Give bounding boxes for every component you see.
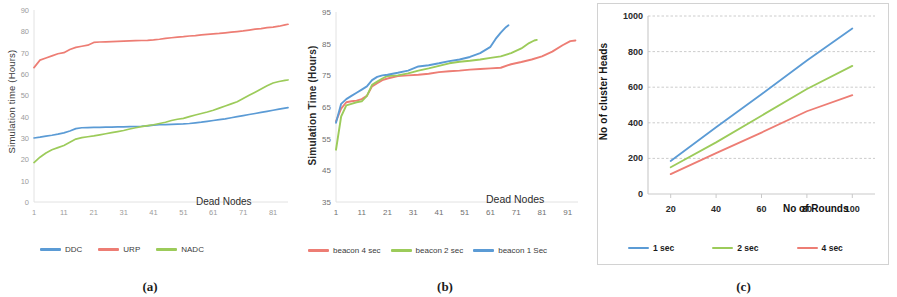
- svg-text:41: 41: [149, 208, 157, 217]
- legend-label-beacon-2sec: beacon 2 sec: [416, 246, 464, 255]
- legend-item-beacon-2sec[interactable]: beacon 2 sec: [391, 246, 464, 255]
- svg-text:20: 20: [21, 155, 29, 164]
- legend-item-urp[interactable]: URP: [98, 245, 140, 254]
- legend-c: 1 sec 2 sec 4 sec: [628, 243, 843, 253]
- legend-item-ddc[interactable]: DDC: [40, 245, 82, 254]
- y-axis-title-b: Simulation Time (Hours): [307, 43, 318, 168]
- legend-swatch-1sec: [628, 247, 649, 249]
- svg-text:91: 91: [563, 208, 572, 217]
- svg-text:35: 35: [322, 198, 331, 207]
- svg-text:40: 40: [711, 204, 721, 214]
- subfigure-caption-b: (b): [300, 279, 590, 295]
- chart-panel-b: 354555657585951112131415161718191 Simula…: [300, 0, 590, 297]
- legend-label-nadc: NADC: [181, 245, 204, 254]
- legend-swatch-urp: [98, 248, 119, 250]
- chart-panel-a: 010203040506070809011121314151617181 Sim…: [0, 0, 300, 297]
- plot-area-c: 0200400600800100020406080100: [590, 0, 897, 240]
- legend-swatch-beacon-2sec: [391, 249, 412, 251]
- legend-label-urp: URP: [123, 245, 140, 254]
- svg-text:45: 45: [322, 166, 331, 175]
- svg-text:51: 51: [179, 208, 187, 217]
- legend-swatch-beacon-1sec: [473, 249, 494, 251]
- svg-text:20: 20: [666, 204, 676, 214]
- chart-svg-c: 0200400600800100020406080100: [590, 0, 897, 240]
- legend-swatch-nadc: [156, 248, 177, 250]
- legend-label-beacon-1sec: beacon 1 Sec: [498, 246, 547, 255]
- svg-text:0: 0: [638, 189, 643, 199]
- svg-text:400: 400: [628, 118, 643, 128]
- svg-text:80: 80: [21, 27, 29, 36]
- legend-swatch-ddc: [40, 248, 61, 250]
- chart-panel-c: 0200400600800100020406080100 No of clust…: [590, 0, 897, 297]
- chart-svg-b: 354555657585951112131415161718191: [300, 0, 590, 240]
- svg-text:11: 11: [60, 208, 68, 217]
- subfigure-caption-a: (a): [0, 279, 300, 295]
- svg-text:10: 10: [21, 177, 29, 186]
- figure-row: 010203040506070809011121314151617181 Sim…: [0, 0, 897, 297]
- svg-text:81: 81: [269, 208, 277, 217]
- legend-b: beacon 4 sec beacon 2 sec beacon 1 Sec: [308, 246, 547, 255]
- legend-swatch-2sec: [712, 247, 733, 249]
- legend-item-2sec[interactable]: 2 sec: [712, 243, 758, 253]
- svg-text:61: 61: [486, 208, 495, 217]
- svg-text:41: 41: [435, 208, 444, 217]
- plot-area-a: 010203040506070809011121314151617181: [0, 0, 300, 240]
- legend-label-ddc: DDC: [65, 245, 82, 254]
- svg-text:200: 200: [628, 153, 643, 163]
- svg-text:70: 70: [21, 49, 29, 58]
- x-axis-title-c: No of Rounds: [783, 203, 849, 214]
- svg-text:81: 81: [538, 208, 547, 217]
- svg-text:50: 50: [21, 91, 29, 100]
- svg-text:30: 30: [21, 134, 29, 143]
- x-axis-title-b: Dead Nodes: [486, 193, 544, 205]
- legend-label-beacon-4sec: beacon 4 sec: [333, 246, 381, 255]
- svg-text:71: 71: [239, 208, 247, 217]
- plot-area-b: 354555657585951112131415161718191: [300, 0, 590, 240]
- svg-text:90: 90: [21, 6, 29, 15]
- y-axis-title-a: Simulation time (Hours): [6, 42, 17, 162]
- svg-text:1: 1: [32, 208, 36, 217]
- legend-item-nadc[interactable]: NADC: [156, 245, 204, 254]
- svg-text:51: 51: [460, 208, 469, 217]
- svg-text:71: 71: [512, 208, 521, 217]
- svg-text:85: 85: [322, 40, 331, 49]
- legend-swatch-beacon-4sec: [308, 249, 329, 251]
- subfigure-caption-c: (c): [590, 279, 897, 295]
- svg-text:65: 65: [322, 103, 331, 112]
- svg-text:40: 40: [21, 113, 29, 122]
- svg-text:31: 31: [409, 208, 418, 217]
- x-axis-title-a: Dead Nodes: [196, 196, 252, 207]
- svg-text:55: 55: [322, 135, 331, 144]
- legend-item-beacon-4sec[interactable]: beacon 4 sec: [308, 246, 381, 255]
- y-axis-title-c: No of cluster Heads: [598, 37, 609, 147]
- legend-swatch-4sec: [797, 247, 818, 249]
- svg-text:600: 600: [628, 82, 643, 92]
- legend-item-beacon-1sec[interactable]: beacon 1 Sec: [473, 246, 547, 255]
- svg-text:95: 95: [322, 8, 331, 17]
- svg-text:1000: 1000: [623, 11, 643, 21]
- legend-label-2sec: 2 sec: [737, 243, 758, 253]
- legend-a: DDC URP NADC: [40, 245, 220, 254]
- svg-text:800: 800: [628, 47, 643, 57]
- svg-text:11: 11: [358, 208, 367, 217]
- svg-text:61: 61: [209, 208, 217, 217]
- svg-text:0: 0: [25, 198, 29, 207]
- svg-text:21: 21: [383, 208, 392, 217]
- svg-text:60: 60: [756, 204, 766, 214]
- chart-svg-a: 010203040506070809011121314151617181: [0, 0, 300, 240]
- svg-text:1: 1: [334, 208, 339, 217]
- legend-label-1sec: 1 sec: [653, 243, 674, 253]
- svg-text:21: 21: [90, 208, 98, 217]
- legend-item-1sec[interactable]: 1 sec: [628, 243, 674, 253]
- svg-text:75: 75: [322, 71, 331, 80]
- svg-text:60: 60: [21, 70, 29, 79]
- legend-item-4sec[interactable]: 4 sec: [797, 243, 843, 253]
- svg-text:31: 31: [119, 208, 127, 217]
- legend-label-4sec: 4 sec: [822, 243, 843, 253]
